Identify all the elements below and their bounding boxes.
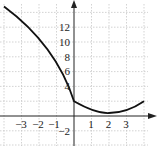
x-tick-label: −3 [15, 118, 27, 130]
y-tick-label: 10 [59, 36, 71, 48]
function-graph: −3 −2 −1 1 2 3 12 10 8 6 4 −2 [0, 0, 157, 146]
x-tick-label: 1 [88, 118, 94, 130]
y-tick-label: 12 [59, 21, 70, 33]
y-tick-label: 6 [65, 65, 71, 77]
y-tick-label: 4 [65, 80, 71, 92]
x-tick-label: 2 [106, 118, 112, 130]
x-axis-arrow-icon [148, 113, 157, 119]
x-tick-label: −2 [32, 118, 44, 130]
x-tick-label: 3 [123, 118, 129, 130]
y-tick-label: −2 [58, 125, 70, 137]
y-axis-arrow-icon [71, 0, 77, 8]
y-tick-label: 8 [65, 51, 71, 63]
